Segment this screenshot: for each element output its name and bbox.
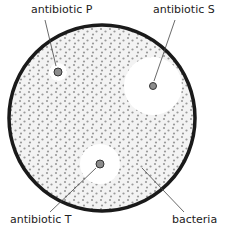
agar-plate bbox=[0, 0, 225, 228]
disk-t bbox=[96, 160, 104, 168]
label-antibiotic-p: antibiotic P bbox=[31, 4, 92, 15]
bacteria-lawn bbox=[0, 0, 225, 228]
label-bacteria: bacteria bbox=[172, 214, 217, 225]
label-antibiotic-s: antibiotic S bbox=[153, 4, 215, 15]
disk-p bbox=[54, 68, 62, 76]
label-antibiotic-t: antibiotic T bbox=[10, 214, 71, 225]
disk-s bbox=[150, 83, 157, 90]
diagram-canvas bbox=[0, 0, 225, 228]
